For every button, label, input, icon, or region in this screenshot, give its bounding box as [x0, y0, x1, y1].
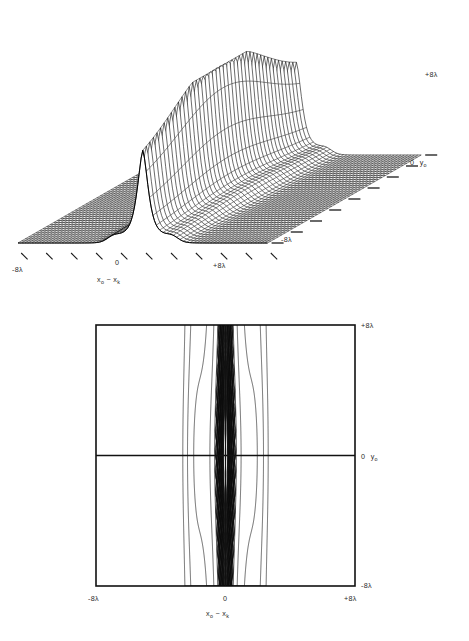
tick-mark [96, 253, 102, 259]
panel-a-y-max-label: +8λ [425, 71, 438, 78]
contour-plot-canvas [0, 310, 469, 641]
panel-b-y-min-label: -8λ [361, 582, 372, 589]
panel-b-x-zero-label: 0 [223, 595, 227, 602]
tick-mark [246, 253, 252, 259]
panel-b-x-axis-op: − x [213, 609, 226, 618]
surface-plot-canvas [0, 0, 469, 310]
tick-mark [221, 253, 227, 259]
panel-a-y-zero-label: 0 yo [410, 159, 427, 169]
panel-a-x-axis-title: xo − xk [97, 276, 120, 286]
scientific-figure: -8λ 0 +8λ xo − xk +8λ 0 yo -8λ +8λ 0 yo … [0, 0, 469, 641]
panel-a-y-zero-value: 0 [410, 158, 414, 167]
tick-mark [121, 253, 127, 259]
panel-b-x-axis-title: xo − xk [206, 610, 229, 620]
panel-a-x-axis-op: − x [104, 275, 117, 284]
contour-plot: +8λ 0 yo -8λ -8λ 0 +8λ xo − xk [0, 310, 469, 641]
panel-b-x-max-label: +8λ [344, 595, 357, 602]
panel-a-x-min-label: -8λ [12, 266, 23, 273]
tick-mark [196, 253, 202, 259]
panel-b-x-min-label: -8λ [88, 595, 99, 602]
panel-a-y-axis-var-sub: o [424, 162, 427, 168]
tick-mark [146, 253, 152, 259]
three-dimensional-surface-plot: -8λ 0 +8λ xo − xk +8λ 0 yo -8λ [0, 0, 469, 310]
tick-mark [46, 253, 52, 259]
panel-a-x-tick-marks [21, 253, 277, 259]
panel-b-y-zero-value: 0 [361, 452, 365, 461]
tick-mark [271, 253, 277, 259]
panel-b-y-max-label: +8λ [361, 322, 374, 329]
panel-a-y-min-label: -8λ [281, 236, 292, 243]
tick-mark [71, 253, 77, 259]
tick-mark [21, 253, 27, 259]
panel-b-x-axis-var2-sub: k [226, 613, 229, 619]
tick-mark [171, 253, 177, 259]
panel-a-x-zero-label: 0 [115, 259, 119, 266]
panel-b-y-axis-var-sub: o [375, 456, 378, 462]
panel-b-y-zero-label: 0 yo [361, 453, 378, 463]
panel-a-x-axis-var2-sub: k [117, 279, 120, 285]
panel-a-x-max-label: +8λ [213, 262, 226, 269]
surface-mesh [18, 51, 421, 253]
